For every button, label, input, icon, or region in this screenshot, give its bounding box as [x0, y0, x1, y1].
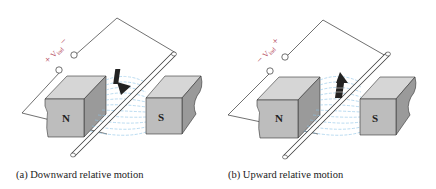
terminal-right — [282, 54, 288, 60]
voltage-symbol: Vind — [49, 44, 65, 60]
south-label: S — [158, 111, 164, 123]
south-label: S — [372, 112, 378, 124]
terminal-right — [71, 52, 77, 58]
caption-downward: (a) Downward relative motion — [16, 169, 143, 180]
circuit-wire-top — [286, 20, 386, 57]
south-magnet: S — [146, 76, 202, 134]
terminal-left — [56, 67, 62, 73]
north-label: N — [62, 112, 70, 124]
diagram-downward: + Vind − N — [0, 0, 218, 189]
diagram-upward: − Vind + N S — [218, 0, 436, 189]
voltage-symbol: Vind — [261, 44, 277, 60]
circuit-wire-top — [73, 18, 176, 57]
caption-upward: (b) Upward relative motion — [228, 169, 343, 180]
polarity-right: + — [269, 35, 281, 47]
terminal-left — [267, 68, 273, 74]
panel-upward-motion: − Vind + N S — [218, 0, 436, 189]
north-label: N — [275, 112, 283, 124]
south-magnet: S — [360, 77, 416, 135]
panel-downward-motion: + Vind − N — [0, 0, 218, 189]
polarity-right: − — [57, 35, 69, 47]
